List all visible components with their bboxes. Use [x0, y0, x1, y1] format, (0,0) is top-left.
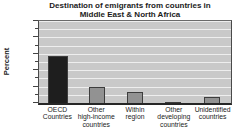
x-tick-label-other-developing-countries: Otherdevelopingcountries — [157, 106, 190, 128]
x-tick-label-unidentified-countries: Unidentifiedcountries — [195, 106, 231, 121]
bar-other-developing-countries — [165, 102, 181, 103]
y-axis-title: Percent — [2, 45, 11, 79]
bar-oecd-countries — [48, 56, 68, 103]
bar-slot — [154, 21, 192, 103]
bar-row — [39, 21, 231, 103]
x-tick-label-within-region: Withinregion — [126, 106, 145, 121]
bar-slot — [116, 21, 154, 103]
x-axis-labels: OECDCountriesOtherhigh-incomecountriesWi… — [38, 106, 232, 136]
bar-slot — [193, 21, 231, 103]
bar-slot — [77, 21, 115, 103]
x-tick-label-oecd-countries: OECDCountries — [43, 106, 72, 121]
bar-unidentified-countries — [204, 97, 220, 103]
chart-title: Destination of emigrants from countries … — [28, 2, 232, 19]
chart-title-line2: Middle East & North Africa — [28, 11, 232, 20]
x-tick-label-other-high-income-countries: Otherhigh-incomecountries — [78, 106, 115, 128]
plot-area — [38, 20, 232, 105]
bar-slot — [39, 21, 77, 103]
bar-other-high-income-countries — [89, 87, 105, 103]
bar-within-region — [127, 92, 143, 103]
